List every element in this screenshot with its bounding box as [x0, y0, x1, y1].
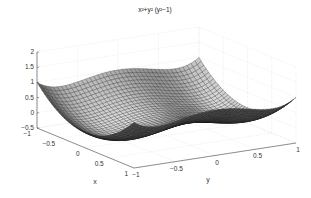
svg-text:−1: −1: [24, 130, 32, 137]
svg-text:−0.5: −0.5: [170, 165, 183, 172]
svg-text:1.5: 1.5: [25, 63, 34, 70]
surface-plot: −0.500.511.52−1−0.500.51−1−0.500.51 x²+y…: [0, 0, 311, 198]
svg-text:−0.5: −0.5: [42, 140, 55, 147]
svg-text:0: 0: [76, 150, 80, 157]
svg-text:1: 1: [296, 146, 300, 153]
y-axis-label: y: [206, 176, 210, 184]
chart-title: x²+y² (y²−1): [138, 6, 172, 14]
x-axis-label: x: [93, 178, 97, 185]
svg-text:−1: −1: [132, 171, 140, 178]
svg-text:0.5: 0.5: [95, 160, 104, 167]
svg-text:1: 1: [124, 170, 128, 177]
surface-mesh: [37, 57, 296, 140]
svg-text:0: 0: [30, 109, 34, 116]
svg-text:0.5: 0.5: [25, 94, 34, 101]
svg-text:2: 2: [30, 48, 34, 55]
svg-text:1: 1: [30, 78, 34, 85]
svg-text:0.5: 0.5: [253, 152, 262, 159]
svg-text:0: 0: [215, 159, 219, 166]
